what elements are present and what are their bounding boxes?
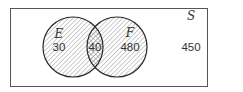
set-e-label: E — [54, 27, 64, 41]
set-f-only-count: 480 — [120, 41, 139, 53]
intersection-count: 40 — [89, 41, 102, 53]
set-e-only-count: 30 — [53, 41, 66, 53]
set-f-label: F — [125, 26, 135, 40]
universe-label: S — [187, 9, 195, 23]
outside-count: 450 — [181, 41, 200, 53]
venn-diagram: S 450 E 30 40 F 480 — [0, 0, 243, 92]
